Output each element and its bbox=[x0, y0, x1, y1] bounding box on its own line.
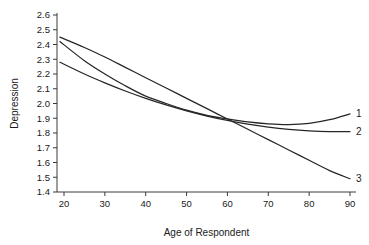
data-curve-1 bbox=[60, 42, 350, 125]
x-tick-label: 90 bbox=[345, 198, 356, 209]
series-label-1: 1 bbox=[356, 108, 362, 119]
x-tick-label: 60 bbox=[222, 198, 233, 209]
y-tick-label: 1.6 bbox=[37, 157, 50, 168]
x-axis-tick-labels: 2030405060708090 bbox=[59, 198, 356, 209]
x-tick-label: 80 bbox=[304, 198, 315, 209]
y-axis-title: Depression bbox=[9, 78, 20, 129]
y-tick-label: 2.3 bbox=[37, 54, 50, 65]
y-tick-label: 1.5 bbox=[37, 172, 50, 183]
data-curve-3 bbox=[60, 37, 350, 179]
line-chart: 1.41.51.61.71.81.92.02.12.22.32.42.52.6 … bbox=[0, 0, 369, 245]
y-tick-label: 1.8 bbox=[37, 127, 50, 138]
x-tick-label: 20 bbox=[59, 198, 70, 209]
y-tick-label: 1.9 bbox=[37, 113, 50, 124]
y-tick-label: 2.1 bbox=[37, 83, 50, 94]
y-axis-tick-marks bbox=[53, 15, 57, 192]
x-tick-label: 50 bbox=[181, 198, 192, 209]
data-curves bbox=[60, 37, 350, 179]
x-axis-tick-marks bbox=[64, 192, 350, 196]
y-tick-label: 2.0 bbox=[37, 98, 50, 109]
series-end-labels: 123 bbox=[356, 108, 362, 184]
y-axis-tick-labels: 1.41.51.61.71.81.92.02.12.22.32.42.52.6 bbox=[37, 9, 50, 197]
y-tick-label: 1.4 bbox=[37, 186, 50, 197]
y-tick-label: 2.5 bbox=[37, 24, 50, 35]
x-axis-title: Age of Respondent bbox=[164, 227, 250, 238]
x-tick-label: 30 bbox=[100, 198, 111, 209]
y-tick-label: 2.6 bbox=[37, 9, 50, 20]
y-tick-label: 1.7 bbox=[37, 142, 50, 153]
y-tick-label: 2.4 bbox=[37, 39, 50, 50]
chart-figure: 1.41.51.61.71.81.92.02.12.22.32.42.52.6 … bbox=[0, 0, 369, 245]
x-tick-label: 40 bbox=[140, 198, 151, 209]
series-label-3: 3 bbox=[356, 173, 362, 184]
series-label-2: 2 bbox=[356, 126, 362, 137]
x-tick-label: 70 bbox=[263, 198, 274, 209]
y-tick-label: 2.2 bbox=[37, 68, 50, 79]
